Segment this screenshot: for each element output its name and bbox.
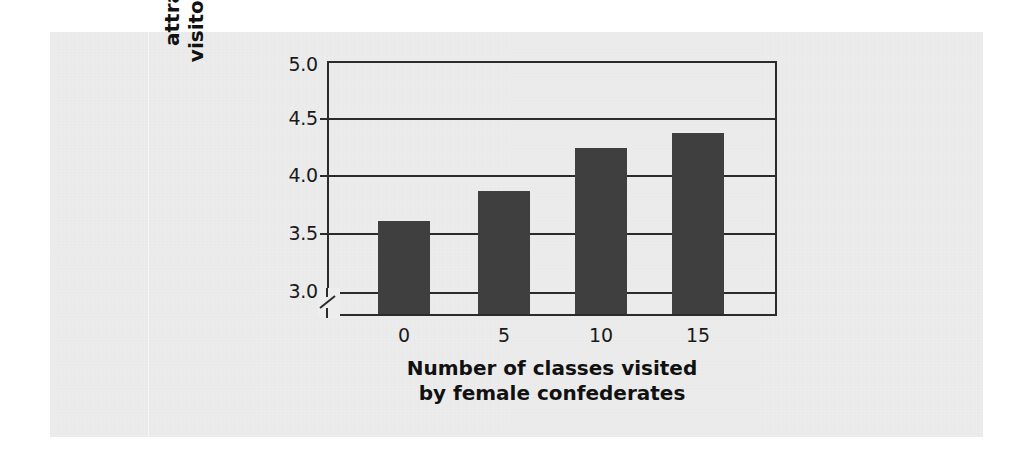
- x-tick-label-15: 15: [668, 326, 728, 345]
- x-axis-title: Number of classes visited by female conf…: [327, 356, 777, 406]
- y-tick-label-4-0: 4.0: [264, 166, 318, 185]
- y-axis-title: Rating of attractiveness of visitor's pe…: [128, 0, 218, 80]
- x-axis-title-line-2: by female confederates: [327, 381, 777, 406]
- y-axis-title-line-2: attractiveness of: [161, 0, 185, 46]
- bar-chart-figure: 5.0 4.5 4.0 3.5 3.0 0 5 10 15 Rating of …: [0, 0, 1024, 458]
- x-tick-label-0: 0: [374, 326, 434, 345]
- y-axis-title-line-3: visitor's personality: [185, 0, 209, 62]
- y-tick-label-4-5: 4.5: [264, 109, 318, 128]
- y-tick-label-5-0: 5.0: [264, 55, 318, 74]
- y-axis-title-line-1: Rating of: [138, 0, 162, 2]
- y-tick-label-3-5: 3.5: [264, 224, 318, 243]
- x-axis-title-line-1: Number of classes visited: [327, 356, 777, 381]
- x-tick-label-5: 5: [474, 326, 534, 345]
- y-tick-label-3-0: 3.0: [264, 282, 318, 301]
- x-tick-label-10: 10: [571, 326, 631, 345]
- axis-break-icon: [318, 288, 340, 318]
- plot-area-frame: [327, 61, 777, 316]
